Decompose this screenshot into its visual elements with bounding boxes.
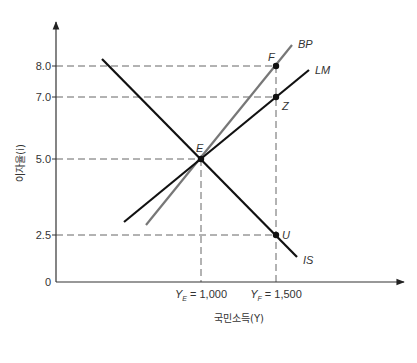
bp-label: BP [298, 38, 313, 50]
y-tick-2-5: 2.5 [36, 229, 51, 241]
point-e [198, 156, 204, 162]
lm-curve [124, 70, 309, 222]
y-tick-5: 5.0 [36, 153, 51, 165]
point-u [273, 232, 279, 238]
y-tick-7: 7.0 [36, 91, 51, 103]
x-tick-ye: YE = 1,000 [175, 288, 227, 302]
bp-curve [146, 45, 292, 225]
reference-lines [56, 66, 276, 282]
x-axis-title: 국민소득(Y) [214, 313, 264, 324]
point-z [273, 94, 279, 100]
x-tick-yf: YF = 1,500 [250, 288, 302, 302]
y-tick-8: 8.0 [36, 60, 51, 72]
y-axis-title: 이자율(i) [15, 144, 26, 182]
point-f-label: F [268, 51, 276, 63]
y-tick-0: 0 [45, 276, 51, 288]
is-label: IS [303, 254, 314, 266]
point-u-label: U [282, 229, 290, 241]
chart: 0 2.5 5.0 7.0 8.0 이자율(i) YE = 1,000 YF =… [0, 0, 417, 363]
point-e-label: E [196, 142, 204, 154]
point-f [273, 63, 279, 69]
lm-label: LM [315, 64, 331, 76]
point-z-label: Z [281, 100, 290, 112]
